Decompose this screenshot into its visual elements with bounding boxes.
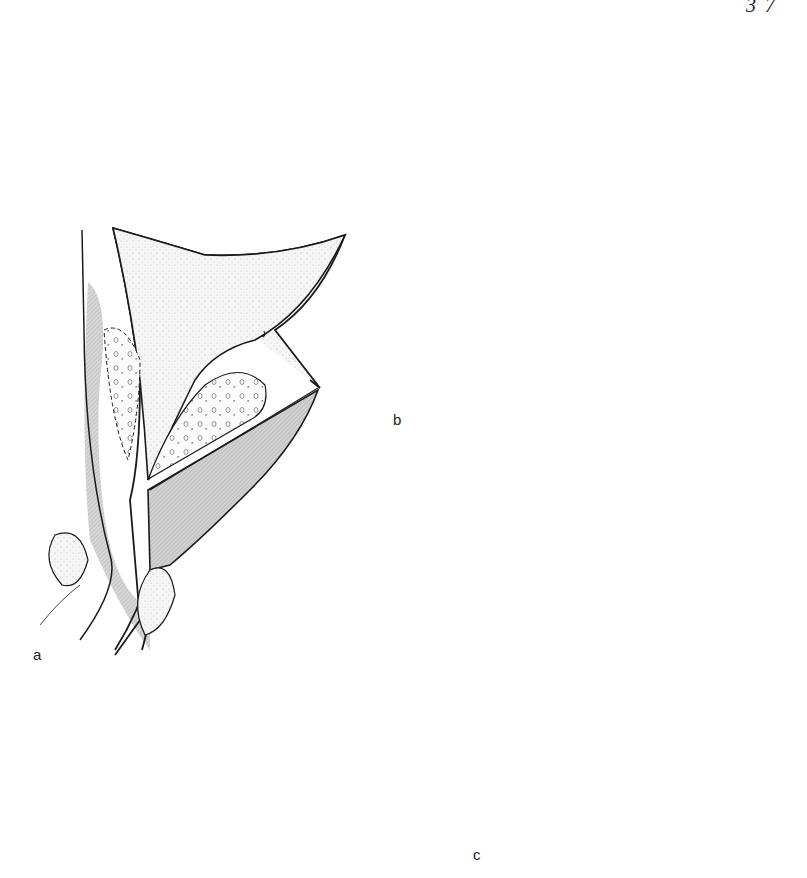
panel-label-a: a [33, 646, 41, 663]
panel-a [40, 228, 345, 655]
anatomical-figure: * [0, 0, 807, 878]
panel-label-c: c [473, 846, 481, 863]
panel-label-b: b [393, 411, 401, 428]
